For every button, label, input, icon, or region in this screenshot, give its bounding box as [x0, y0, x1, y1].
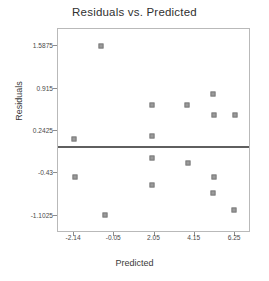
x-axis-tick-label: 6.25	[228, 234, 241, 241]
x-axis-tick-label: 4.15	[187, 234, 200, 241]
data-point	[185, 102, 190, 107]
data-point	[211, 191, 216, 196]
zero-reference-line	[58, 146, 249, 148]
y-axis-tick-mark	[53, 215, 57, 216]
y-axis-tick-label: 1.5875	[33, 42, 53, 49]
plot-area	[57, 28, 250, 232]
y-axis-tick-label: 0.2425	[33, 126, 53, 133]
data-point	[150, 182, 155, 187]
y-axis-tick-mark	[53, 172, 57, 173]
y-axis-tick-mark	[53, 45, 57, 46]
residual-plot-figure: Residuals vs. Predicted Residuals Predic…	[0, 0, 269, 281]
data-point	[72, 137, 77, 142]
data-point	[186, 160, 191, 165]
x-axis-tick-label: -0.05	[106, 234, 121, 241]
y-axis-tick-labels: 1.58750.9150.2425-0.43-1.1025	[0, 0, 53, 281]
data-point	[232, 207, 237, 212]
data-point	[73, 175, 78, 180]
data-point	[211, 92, 216, 97]
y-axis-tick-mark	[53, 88, 57, 89]
y-axis-tick-mark	[53, 130, 57, 131]
data-point	[211, 113, 216, 118]
y-axis-tick-label: 0.915	[36, 84, 53, 91]
x-axis-tick-label: -2.14	[66, 234, 81, 241]
data-point	[150, 133, 155, 138]
y-axis-tick-label: -1.1025	[31, 211, 53, 218]
data-point	[99, 44, 104, 49]
x-axis-tick-label: 2.05	[147, 234, 160, 241]
data-point	[150, 155, 155, 160]
data-point	[150, 102, 155, 107]
data-point	[233, 113, 238, 118]
data-point	[211, 175, 216, 180]
data-point	[103, 212, 108, 217]
y-axis-tick-label: -0.43	[38, 169, 53, 176]
